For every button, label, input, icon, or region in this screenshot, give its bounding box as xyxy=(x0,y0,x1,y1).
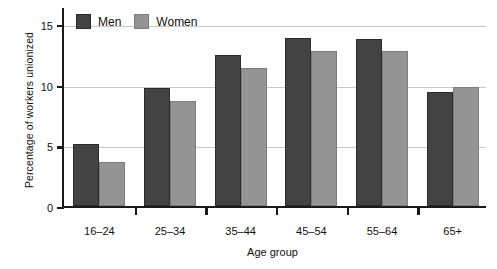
y-tick-mark-15 xyxy=(57,25,64,27)
y-tick-mark-0 xyxy=(57,207,64,209)
legend-entry-men: Men xyxy=(76,14,121,29)
bar-chart-figure: Percentage of workers unionized 05101516… xyxy=(0,0,497,269)
x-tick-mark-4 xyxy=(347,206,349,215)
x-tick-mark-2 xyxy=(205,206,207,215)
x-tick-mark-5 xyxy=(417,206,419,215)
y-tick-mark-10 xyxy=(57,86,64,88)
bar-men-25-34 xyxy=(144,88,170,206)
x-tick-mark-1 xyxy=(135,206,137,215)
legend-label-women: Women xyxy=(156,15,197,29)
bar-men-35-44 xyxy=(215,55,241,207)
x-tick-mark-3 xyxy=(276,206,278,215)
legend-swatch-men-icon xyxy=(76,14,91,29)
bar-women-65+ xyxy=(453,87,479,206)
y-tick-label-0: 0 xyxy=(29,202,53,214)
bar-women-16-24 xyxy=(99,162,125,206)
x-tick-label-16-24: 16–24 xyxy=(84,225,115,237)
plot-area: 05101516–2425–3435–4445–5455–6465+ xyxy=(64,8,486,206)
legend-entry-women: Women xyxy=(134,14,197,29)
bar-women-45-54 xyxy=(311,51,337,206)
x-tick-label-25-34: 25–34 xyxy=(155,225,186,237)
x-tick-label-55-64: 55–64 xyxy=(367,225,398,237)
bar-women-25-34 xyxy=(170,101,196,206)
bar-women-55-64 xyxy=(382,51,408,206)
y-tick-label-5: 5 xyxy=(29,141,53,153)
gridline-10 xyxy=(64,87,486,88)
bar-men-55-64 xyxy=(356,39,382,206)
x-tick-label-65+: 65+ xyxy=(443,225,462,237)
bar-men-16-24 xyxy=(73,144,99,206)
chart-legend: Men Women xyxy=(76,14,197,29)
y-tick-label-10: 10 xyxy=(29,81,53,93)
y-axis-title: Percentage of workers unionized xyxy=(23,15,35,205)
x-tick-label-45-54: 45–54 xyxy=(296,225,327,237)
x-axis-title: Age group xyxy=(60,246,485,258)
bar-women-35-44 xyxy=(241,68,267,206)
plot-frame: 05101516–2425–3435–4445–5455–6465+ xyxy=(62,8,486,208)
bar-men-65+ xyxy=(427,92,453,206)
legend-label-men: Men xyxy=(98,15,121,29)
bar-men-45-54 xyxy=(285,38,311,206)
gridline-5 xyxy=(64,147,486,148)
y-tick-label-15: 15 xyxy=(29,20,53,32)
y-tick-mark-5 xyxy=(57,146,64,148)
x-tick-label-35-44: 35–44 xyxy=(225,225,256,237)
legend-swatch-women-icon xyxy=(134,14,149,29)
